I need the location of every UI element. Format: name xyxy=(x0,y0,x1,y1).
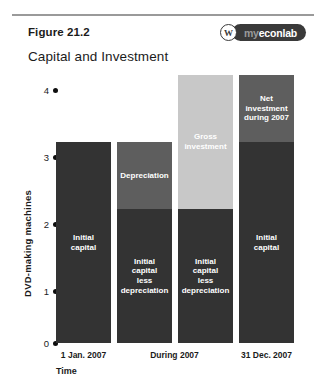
bar-segment-label: Initial capital less depreciation xyxy=(180,257,232,296)
bar-segment-label: Initial capital less depreciation xyxy=(119,257,171,296)
y-tick-4-label: 4 xyxy=(44,85,49,96)
bar-segment-label: Gross investment xyxy=(182,132,228,152)
myeconlab-badge-icon: W xyxy=(220,24,237,41)
bar-column-4: Initial capital Net investment during 20… xyxy=(239,75,294,343)
y-tick-4: 4 xyxy=(26,84,58,96)
y-tick-3-label: 3 xyxy=(44,152,49,163)
bar-segment-initial-capital: Initial capital xyxy=(239,142,294,343)
bar-column-2: Initial capital less depreciation Deprec… xyxy=(117,142,172,343)
brand-my-text: my xyxy=(244,27,259,39)
y-tick-4-dot xyxy=(53,88,58,93)
bar-segment-label: Net investment during 2007 xyxy=(242,94,291,123)
bar-segment-depreciation: Depreciation xyxy=(117,142,172,209)
bar-segment-net-investment: Net investment during 2007 xyxy=(239,75,294,142)
bar-column-3: Initial capital less depreciation Gross … xyxy=(178,75,233,343)
x-tick-label-3: 31 Dec. 2007 xyxy=(239,350,294,360)
bar-segment-label: Depreciation xyxy=(118,171,170,181)
y-axis-title: DVD-making machines xyxy=(22,159,33,329)
y-tick-2-label: 2 xyxy=(44,219,49,230)
y-tick-0-label: 0 xyxy=(44,338,49,349)
y-tick-0: 0 xyxy=(26,337,58,349)
x-axis-title: Time xyxy=(56,366,77,376)
bar-segment-initial-capital-less-depreciation: Initial capital less depreciation xyxy=(178,209,233,343)
bar-segment-initial-capital: Initial capital xyxy=(56,142,111,343)
bar-segment-label: Initial capital xyxy=(69,233,98,253)
myeconlab-logo: W myeconlab xyxy=(220,24,306,41)
chart-plot-area: 4 3 2 1 0 DVD-making machines Initial ca… xyxy=(12,16,314,382)
myeconlab-wordmark: myeconlab xyxy=(232,24,306,41)
figure-card: Figure 21.2 Capital and Investment W mye… xyxy=(12,14,314,380)
bar-segment-label: Initial capital xyxy=(252,233,281,253)
x-tick-label-2: During 2007 xyxy=(147,350,202,360)
brand-econlab-text: econlab xyxy=(259,27,297,39)
bar-segment-gross-investment: Gross investment xyxy=(178,75,233,209)
x-tick-label-1: 1 Jan. 2007 xyxy=(56,350,111,360)
bar-segment-initial-capital-less-depreciation: Initial capital less depreciation xyxy=(117,209,172,343)
y-tick-1-label: 1 xyxy=(44,286,49,297)
bar-column-1: Initial capital xyxy=(56,142,111,343)
